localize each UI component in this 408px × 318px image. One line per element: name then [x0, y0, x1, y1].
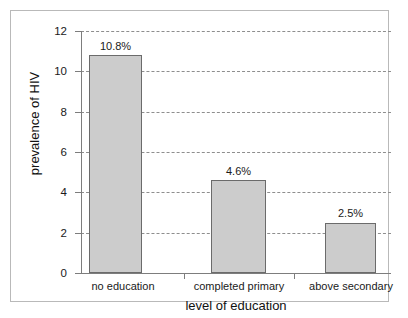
y-tick-mark-0: [75, 273, 82, 274]
x-tick-mark-2: [294, 273, 295, 279]
x-axis-line: [81, 273, 391, 274]
y-tick-mark-10: [75, 71, 82, 72]
x-axis-title: level of education: [81, 299, 391, 312]
bar-no-education[interactable]: [89, 55, 142, 273]
y-tick-label-12: 12: [11, 26, 67, 38]
x-category-label-above-secondary: above secondary: [291, 281, 408, 292]
bar-completed-primary[interactable]: [211, 180, 266, 273]
y-tick-label-0: 0: [11, 268, 67, 280]
y-tick-mark-8: [75, 112, 82, 113]
y-tick-mark-12: [75, 31, 82, 32]
y-tick-mark-4: [75, 192, 82, 193]
y-axis-title: prevalence of HIV: [28, 44, 41, 204]
y-tick-mark-2: [75, 233, 82, 234]
gridline-12: [81, 31, 391, 32]
bar-value-above-secondary: 2.5%: [310, 208, 391, 219]
chart-frame: 12 10 8 6 4 2 0 10.8% 4.6% 2.5% no educa…: [10, 10, 389, 302]
y-tick-mark-6: [75, 152, 82, 153]
x-category-label-no-education: no education: [63, 281, 183, 292]
x-category-label-completed-primary: completed primary: [179, 281, 299, 292]
x-tick-mark-1: [184, 273, 185, 279]
y-tick-label-2: 2: [11, 228, 67, 240]
bar-value-no-education: 10.8%: [75, 41, 156, 52]
bar-above-secondary[interactable]: [325, 223, 376, 273]
bar-value-completed-primary: 4.6%: [198, 166, 279, 177]
chart-figure: 12 10 8 6 4 2 0 10.8% 4.6% 2.5% no educa…: [0, 0, 408, 318]
